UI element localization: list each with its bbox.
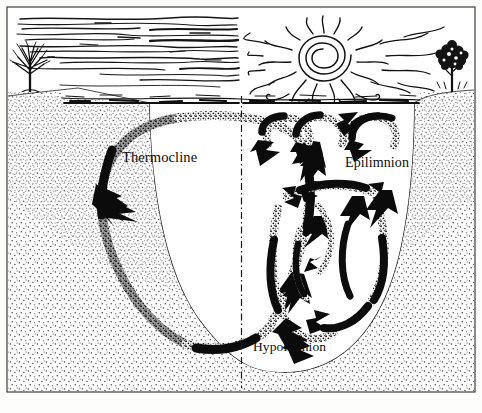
lake-stratification-figure: Thermocline Epilimnion Hypolimnion [0, 0, 482, 413]
label-epilimnion: Epilimnion [345, 155, 409, 171]
label-thermocline: Thermocline [122, 149, 197, 166]
label-hypolimnion: Hypolimnion [253, 339, 326, 355]
diagram-canvas [0, 0, 482, 413]
